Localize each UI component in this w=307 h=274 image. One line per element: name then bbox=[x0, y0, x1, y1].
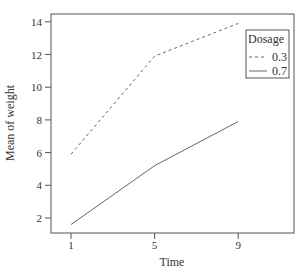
x-tick-label: 9 bbox=[235, 239, 241, 251]
y-tick-label: 8 bbox=[37, 114, 43, 126]
x-tick-label: 5 bbox=[152, 239, 158, 251]
y-axis-label: Mean of weight bbox=[3, 84, 17, 161]
y-tick-label: 4 bbox=[37, 179, 43, 191]
line-chart: 2468101214 159 Time Mean of weight Dosag… bbox=[0, 0, 307, 274]
y-tick-label: 2 bbox=[37, 212, 43, 224]
legend-title: Dosage bbox=[248, 32, 284, 46]
legend-entry-0: 0.3 bbox=[272, 50, 287, 64]
x-tick-label: 1 bbox=[68, 239, 74, 251]
x-axis: 159 bbox=[68, 233, 241, 251]
series-lines bbox=[71, 23, 238, 224]
legend: Dosage 0.3 0.7 bbox=[246, 30, 289, 78]
y-axis: 2468101214 bbox=[31, 16, 51, 224]
y-tick-label: 12 bbox=[31, 49, 42, 61]
x-axis-label: Time bbox=[160, 255, 185, 269]
legend-entry-1: 0.7 bbox=[272, 64, 287, 78]
y-tick-label: 14 bbox=[31, 16, 43, 28]
y-tick-label: 10 bbox=[31, 81, 43, 93]
y-tick-label: 6 bbox=[37, 147, 43, 159]
series-line-0-7 bbox=[71, 122, 238, 225]
